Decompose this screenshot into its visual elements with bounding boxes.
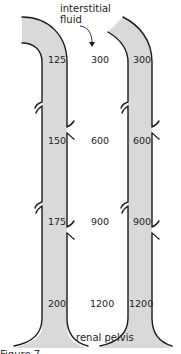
left-tube-value-2: 150 bbox=[48, 136, 66, 146]
right-tube-value-2: 600 bbox=[133, 136, 151, 146]
right-tube-value-4: 1200 bbox=[129, 299, 153, 309]
interstitial-value-4: 1200 bbox=[90, 299, 114, 309]
arrow-head-icon bbox=[89, 42, 95, 47]
left-tube-value-1: 125 bbox=[48, 55, 66, 65]
interstitial-value-1: 300 bbox=[91, 55, 109, 65]
right-tube-value-1: 300 bbox=[133, 55, 151, 65]
renal-pelvis-label: renal pelvis bbox=[76, 333, 134, 344]
left-tube-value-3: 175 bbox=[48, 217, 66, 227]
interstitial-label-line1: interstitial bbox=[60, 4, 111, 15]
right-tube-value-3: 900 bbox=[133, 217, 151, 227]
interstitial-fluid-label: interstitial fluid bbox=[60, 4, 111, 25]
left-tube-value-4: 200 bbox=[48, 299, 66, 309]
figure-caption-cutoff: Figure 7 ... bbox=[0, 349, 181, 354]
left-tube-inner-wall bbox=[14, 43, 42, 346]
interstitial-value-3: 900 bbox=[91, 217, 109, 227]
interstitial-value-2: 600 bbox=[91, 136, 109, 146]
interstitial-label-line2: fluid bbox=[60, 15, 111, 26]
interstitial-arrow bbox=[80, 26, 92, 43]
